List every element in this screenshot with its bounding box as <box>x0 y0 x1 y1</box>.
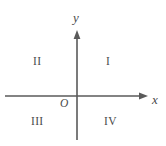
quadrant-one-label: I <box>106 56 110 68</box>
origin-label: O <box>60 98 68 110</box>
quadrant-two-label: II <box>33 56 41 68</box>
y-axis-arrowhead <box>74 30 81 39</box>
axes-group <box>0 0 166 146</box>
quadrant-three-label: III <box>31 116 43 128</box>
coordinate-plane-diagram: y x O I II III IV <box>0 0 166 146</box>
quadrant-four-label: IV <box>104 116 117 128</box>
x-axis-label: x <box>152 93 158 106</box>
x-axis-arrowhead <box>139 93 148 100</box>
y-axis-label: y <box>73 11 79 24</box>
